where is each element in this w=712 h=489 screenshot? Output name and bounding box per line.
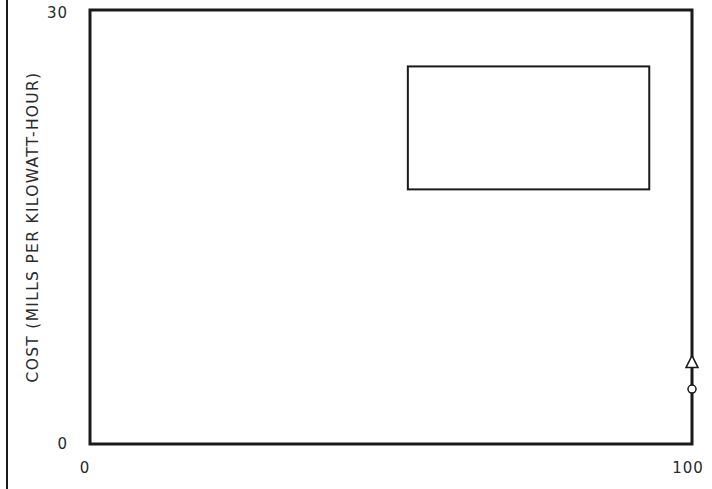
- y-axis-label: COST (MILLS PER KILOWATT-HOUR): [24, 72, 42, 383]
- cost-range-box: [408, 66, 649, 189]
- tick-labels: 0300100: [47, 4, 704, 477]
- chart: COST (MILLS PER KILOWATT-HOUR) 0300100: [0, 0, 712, 489]
- x-tick-label: 0: [80, 459, 91, 477]
- y-tick-label: 30: [47, 4, 68, 22]
- y-tick-label: 0: [57, 435, 68, 453]
- x-tick-label: 100: [672, 459, 704, 477]
- triangle-marker: [686, 356, 698, 368]
- plot-frame: [90, 10, 692, 444]
- circle-marker: [688, 385, 696, 393]
- plot-area: [90, 10, 698, 444]
